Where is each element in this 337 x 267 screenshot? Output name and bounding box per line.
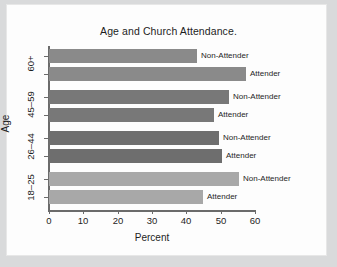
x-tick-50 <box>221 210 222 214</box>
y-tick-label-4559: 45–59 <box>25 83 36 127</box>
bar-60plus-non-attender <box>49 49 197 63</box>
x-tick-0 <box>49 210 50 214</box>
bar-4559-non-attender <box>49 90 229 104</box>
y-tick-label-2644: 26–44 <box>25 125 36 169</box>
bar-label-2644-attender: Attender <box>226 149 256 163</box>
x-tick-label-30: 30 <box>139 215 165 226</box>
x-tick-label-0: 0 <box>36 215 62 226</box>
y-tick-1825 <box>44 179 48 180</box>
bar-1825-non-attender <box>49 172 239 186</box>
x-axis-title: Percent <box>49 232 255 243</box>
y-tick-2644-b <box>44 156 48 157</box>
x-tick-10 <box>83 210 84 214</box>
x-tick-label-20: 20 <box>105 215 131 226</box>
bar-label-1825-non-attender: Non-Attender <box>243 172 291 186</box>
bar-label-4559-attender: Attender <box>218 108 248 122</box>
bar-label-60plus-non-attender: Non-Attender <box>201 49 249 63</box>
bar-label-2644-non-attender: Non-Attender <box>223 131 271 145</box>
bar-2644-non-attender <box>49 131 219 145</box>
chart-title: Age and Church Attendance. <box>0 25 337 37</box>
x-tick-60 <box>255 210 256 214</box>
y-tick-2644 <box>44 138 48 139</box>
bar-1825-attender <box>49 190 203 204</box>
bar-label-1825-attender: Attender <box>207 190 237 204</box>
x-tick-label-40: 40 <box>173 215 199 226</box>
bar-2644-attender <box>49 149 222 163</box>
y-tick-60plus <box>44 56 48 57</box>
chart-figure: Age and Church Attendance. Non-Attender … <box>0 0 337 267</box>
bar-label-4559-non-attender: Non-Attender <box>233 90 281 104</box>
bar-4559-attender <box>49 108 214 122</box>
bar-label-60plus-attender: Attender <box>250 67 280 81</box>
y-tick-label-60plus: 60+ <box>25 42 36 86</box>
y-tick-label-1825: 18–25 <box>25 166 36 210</box>
x-tick-label-60: 60 <box>242 215 268 226</box>
y-tick-4559 <box>44 97 48 98</box>
x-tick-label-50: 50 <box>208 215 234 226</box>
y-tick-4559-b <box>44 115 48 116</box>
y-tick-60plus-b <box>44 74 48 75</box>
x-tick-30 <box>152 210 153 214</box>
y-tick-1825-b <box>44 197 48 198</box>
y-axis-title: Age <box>0 115 11 133</box>
x-tick-40 <box>186 210 187 214</box>
x-tick-20 <box>118 210 119 214</box>
bar-60plus-attender <box>49 67 246 81</box>
x-tick-label-10: 10 <box>70 215 96 226</box>
